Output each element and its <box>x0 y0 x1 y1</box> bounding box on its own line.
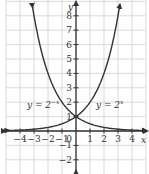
y-tick-label: 4 <box>66 68 72 78</box>
x-tick-label: −2 <box>41 134 54 144</box>
exponential-graph: xy −4−3−2−11234−2−1123456780 y = 2−xy = … <box>0 0 149 174</box>
x-tick-label: −4 <box>13 134 27 144</box>
axes: xy <box>4 2 146 172</box>
y-tick-label: 6 <box>66 40 72 50</box>
curve-label: y = 2x <box>95 98 124 110</box>
curve-label: y = 2−x <box>26 98 60 110</box>
curve-labels: y = 2−xy = 2x <box>26 98 124 110</box>
curve-2-pow-neg-x <box>32 6 144 131</box>
x-tick-label: 1 <box>87 134 93 144</box>
y-tick-label: 8 <box>66 11 72 21</box>
x-tick-label: 3 <box>115 134 121 144</box>
x-axis-label: x <box>141 135 146 145</box>
x-tick-label: 4 <box>129 134 135 144</box>
y-tick-label: 2 <box>66 97 72 107</box>
x-tick-label: 2 <box>101 134 107 144</box>
y-tick-label: 5 <box>66 54 72 64</box>
y-tick-label: 7 <box>66 25 72 35</box>
y-tick-label: 3 <box>66 83 72 93</box>
origin-label: 0 <box>66 134 72 144</box>
x-tick-label: −3 <box>27 134 41 144</box>
y-tick-label: −2 <box>59 155 72 165</box>
curve-2-pow-x <box>7 6 119 131</box>
